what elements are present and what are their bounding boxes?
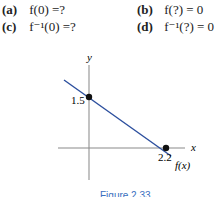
function-label: f(x) [175,159,191,172]
y-intercept-label: 1.5 [71,94,85,106]
function-line [64,80,171,156]
x-axis-label: x [190,141,196,153]
x-intercept-label: 2.2 [158,151,172,163]
y-intercept-point [86,94,92,100]
figure-caption: Figure 2.33 [100,190,151,197]
y-axis-label: y [86,51,92,63]
function-graph: y x 1.5 2.2 f(x) [0,0,218,197]
